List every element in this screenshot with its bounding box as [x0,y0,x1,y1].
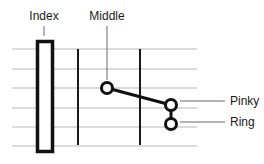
pinky-label: Pinky [230,94,259,108]
ring-label: Ring [230,115,255,129]
pinky-finger-dot [166,100,177,111]
middle-finger-dot [102,83,113,94]
middle-label: Middle [89,9,125,23]
fretboard-diagram: Index Middle Pinky Ring [0,0,264,164]
frets [78,49,140,145]
ring-finger-dot [166,119,177,130]
index-barre-marker [38,42,53,152]
index-label: Index [29,9,58,23]
